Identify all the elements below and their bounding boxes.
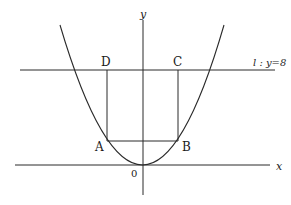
diagram-canvas bbox=[0, 0, 291, 205]
point-b-label: B bbox=[182, 141, 191, 153]
parabola bbox=[60, 25, 224, 165]
point-a-label: A bbox=[95, 141, 104, 153]
point-d-label: D bbox=[101, 56, 111, 68]
point-c-label: C bbox=[173, 56, 182, 68]
origin-label: 0 bbox=[131, 169, 137, 179]
line-l-label: l : y=8 bbox=[253, 58, 286, 68]
y-axis-label: y bbox=[140, 9, 146, 20]
x-axis-label: x bbox=[276, 161, 282, 172]
